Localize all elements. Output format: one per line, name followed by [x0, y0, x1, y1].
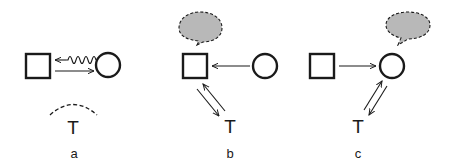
third-party-label: T: [224, 116, 236, 137]
third-party-label: T: [67, 117, 79, 138]
square-node: [310, 54, 334, 78]
panel-caption: b: [226, 146, 233, 161]
third-party-label: T: [352, 116, 364, 137]
arrow-circle-to-t: [369, 86, 387, 115]
panel-a: T a: [26, 53, 120, 161]
panel-caption: a: [70, 146, 78, 161]
circle-node: [96, 53, 120, 77]
arrow-t-to-square: [203, 84, 225, 111]
wavy-arrow: [55, 57, 96, 64]
square-node: [183, 54, 207, 78]
panel-b: T b: [179, 12, 277, 161]
square-node: [26, 54, 50, 78]
arrow-square-to-t: [197, 89, 219, 116]
arrow-t-to-circle: [364, 81, 382, 110]
thought-bubble: [179, 12, 222, 45]
panel-c: T c: [310, 12, 430, 161]
circle-node: [253, 54, 277, 78]
circle-node: [380, 54, 404, 78]
dashed-arc: [50, 105, 97, 116]
panel-caption: c: [355, 146, 362, 161]
diagram-canvas: T a T b T c: [0, 0, 454, 168]
thought-bubble: [386, 12, 430, 45]
